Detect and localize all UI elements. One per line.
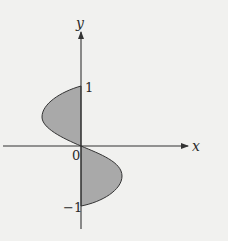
lower-right-shaded-region <box>81 146 122 206</box>
plot-svg: y x 0 1 −1 <box>0 0 228 241</box>
y-tick-label-neg1: −1 <box>63 200 82 215</box>
y-tick-label-1: 1 <box>85 80 93 95</box>
y-axis-label: y <box>75 15 85 31</box>
x-axis-label: x <box>192 138 200 154</box>
upper-left-shaded-region <box>42 86 81 146</box>
diagram-figure: y x 0 1 −1 <box>0 0 228 241</box>
origin-label: 0 <box>72 148 80 163</box>
